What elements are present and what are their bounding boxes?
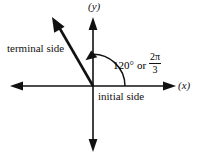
fraction-denominator: 3 (152, 64, 159, 75)
angle-diagram: terminal side initial side (y) (x) 120° … (0, 0, 208, 163)
x-axis-label: (x) (178, 80, 190, 91)
angle-conjunction-label: or (137, 59, 146, 71)
y-axis-bottom-arrowhead (89, 139, 98, 152)
y-axis-top-arrowhead (89, 17, 98, 30)
initial-side-label: initial side (98, 91, 144, 102)
terminal-side-label: terminal side (7, 43, 64, 54)
terminal-side-arrowhead (52, 17, 65, 33)
y-axis-label: (y) (88, 1, 100, 12)
angle-measure-annotation: 120° or 2π 3 (113, 53, 161, 76)
fraction-numerator: 2π (149, 52, 161, 63)
angle-radians-fraction: 2π 3 (149, 52, 161, 75)
diagram-canvas (0, 0, 208, 163)
terminal-side-ray (58, 25, 94, 87)
angle-degrees-label: 120° (113, 59, 134, 71)
x-axis-right-arrowhead (163, 82, 176, 91)
x-axis-left-arrowhead (10, 82, 23, 91)
angle-arc-arrowhead (86, 51, 98, 61)
